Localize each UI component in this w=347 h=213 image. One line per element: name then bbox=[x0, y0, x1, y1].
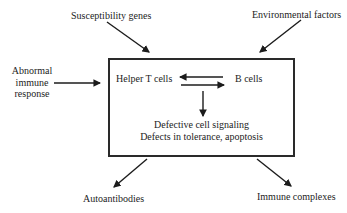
box-to-autoantibodies-arrow bbox=[114, 159, 147, 187]
abnormal-line-1: Abnormal bbox=[6, 65, 58, 77]
label-defective-cell-signaling: Defective cell signaling bbox=[108, 119, 295, 131]
diagram-canvas: Susceptibility genes Environmental facto… bbox=[0, 0, 347, 213]
label-abnormal-immune-response: Abnormal immune response bbox=[6, 65, 58, 100]
label-defects-tolerance-apoptosis: Defects in tolerance, apoptosis bbox=[108, 131, 295, 143]
label-environmental-factors: Environmental factors bbox=[252, 9, 341, 21]
abnormal-line-3: response bbox=[6, 88, 58, 100]
label-immune-complexes: Immune complexes bbox=[257, 191, 336, 203]
label-b-cells: B cells bbox=[235, 73, 263, 85]
label-helper-t-cells: Helper T cells bbox=[116, 73, 172, 85]
environmental-to-box-arrow bbox=[260, 20, 301, 52]
label-susceptibility-genes: Susceptibility genes bbox=[71, 10, 151, 22]
abnormal-line-2: immune bbox=[6, 77, 58, 89]
susceptibility-to-box-arrow bbox=[107, 22, 149, 52]
label-autoantibodies: Autoantibodies bbox=[83, 193, 144, 205]
box-to-immune-complexes-arrow bbox=[257, 159, 291, 186]
box-caption: Defective cell signaling Defects in tole… bbox=[108, 119, 295, 143]
